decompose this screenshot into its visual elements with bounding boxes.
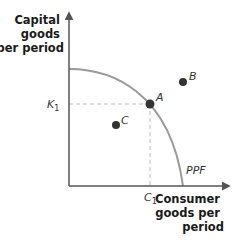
point-c-label: C xyxy=(121,114,129,127)
point-a-label: A xyxy=(155,91,164,104)
ppf-label: PPF xyxy=(186,164,206,177)
point-b-label: B xyxy=(189,70,197,83)
k1-tick-label: K1 xyxy=(47,98,59,113)
y-axis-label: Capital goods per period xyxy=(0,13,64,55)
x-axis-label: Consumer goods per period xyxy=(155,192,224,234)
ppf-curve xyxy=(69,69,183,186)
point-c-marker xyxy=(112,121,120,129)
point-b-marker xyxy=(179,78,187,86)
ppf-diagram: Capital goods per period Consumer goods … xyxy=(0,0,239,240)
point-a-marker xyxy=(146,100,155,109)
